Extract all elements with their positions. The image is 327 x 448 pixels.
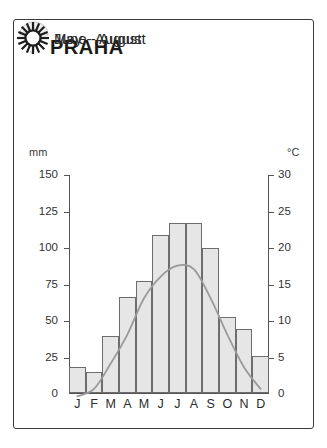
right-tick-label-15: 15 <box>278 278 302 290</box>
month-label-8: S <box>203 397 219 411</box>
month-label-7: A <box>186 397 202 411</box>
left-tick-label-25: 25 <box>28 351 58 363</box>
right-tick <box>269 285 274 286</box>
month-label-3: A <box>119 397 135 411</box>
month-label-6: J <box>169 397 185 411</box>
right-tick <box>269 175 274 176</box>
left-tick-label-125: 125 <box>28 205 58 217</box>
sun-icon <box>14 20 54 56</box>
month-label-2: M <box>103 397 119 411</box>
right-tick <box>269 248 274 249</box>
left-tick-label-0: 0 <box>28 387 58 399</box>
climate-chart-card: PRAHA June - August <box>13 19 314 429</box>
right-tick-label-10: 10 <box>278 314 302 326</box>
left-axis-unit: mm <box>29 146 47 158</box>
plot-area: 150 125 100 75 50 25 0 30 25 20 15 10 5 … <box>69 175 269 394</box>
left-tick-label-75: 75 <box>28 278 58 290</box>
right-tick <box>269 358 274 359</box>
left-tick-label-100: 100 <box>28 241 58 253</box>
right-tick-label-30: 30 <box>278 168 302 180</box>
month-label-0: J <box>69 397 85 411</box>
month-label-4: M <box>136 397 152 411</box>
right-axis-unit: °C <box>287 146 299 158</box>
right-tick <box>269 212 274 213</box>
left-tick-label-150: 150 <box>28 168 58 180</box>
left-tick-label-50: 50 <box>28 314 58 326</box>
right-tick-label-5: 5 <box>278 351 302 363</box>
month-label-10: N <box>236 397 252 411</box>
month-label-1: F <box>86 397 102 411</box>
right-tick-label-25: 25 <box>278 205 302 217</box>
month-label-9: O <box>219 397 235 411</box>
right-tick-label-20: 20 <box>278 241 302 253</box>
legend-label-sun: May - August <box>54 30 142 47</box>
temperature-curve <box>69 175 269 394</box>
legend-item-sun: May - August <box>14 20 142 56</box>
month-label-5: J <box>153 397 169 411</box>
month-label-11: D <box>253 397 269 411</box>
right-tick <box>269 321 274 322</box>
right-tick-label-0: 0 <box>278 387 302 399</box>
